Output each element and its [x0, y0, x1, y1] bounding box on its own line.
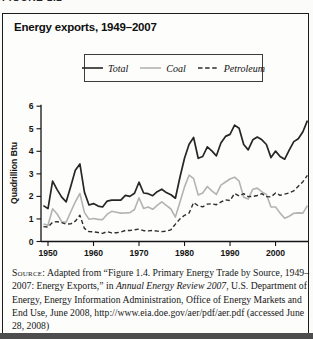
source-text-segment: Source:: [12, 267, 45, 278]
total-line-sample-icon: [82, 64, 103, 72]
legend-item-total: Total: [82, 63, 128, 74]
coal-line-sample-icon: [140, 64, 161, 72]
legend: TotalCoalPetroleum: [84, 54, 263, 82]
legend-label: Coal: [166, 63, 185, 74]
legend-item-coal: Coal: [140, 63, 185, 74]
petroleum-line-sample-icon: [198, 64, 219, 72]
figure-panel: Energy exports, 1949–2007 TotalCoalPetro…: [2, 13, 309, 339]
chart-title: Energy exports, 1949–2007: [14, 21, 157, 33]
source-text-segment: Annual Energy Review 2007: [116, 280, 226, 291]
source-note: Source: Adapted from “Figure 1.4. Primar…: [12, 266, 309, 332]
bottom-page-rule: [0, 333, 313, 339]
legend-item-petroleum: Petroleum: [198, 63, 265, 74]
legend-label: Total: [108, 63, 128, 74]
legend-label: Petroleum: [224, 63, 265, 74]
clipped-figure-label: FIGURE 1.2: [2, 0, 62, 3]
